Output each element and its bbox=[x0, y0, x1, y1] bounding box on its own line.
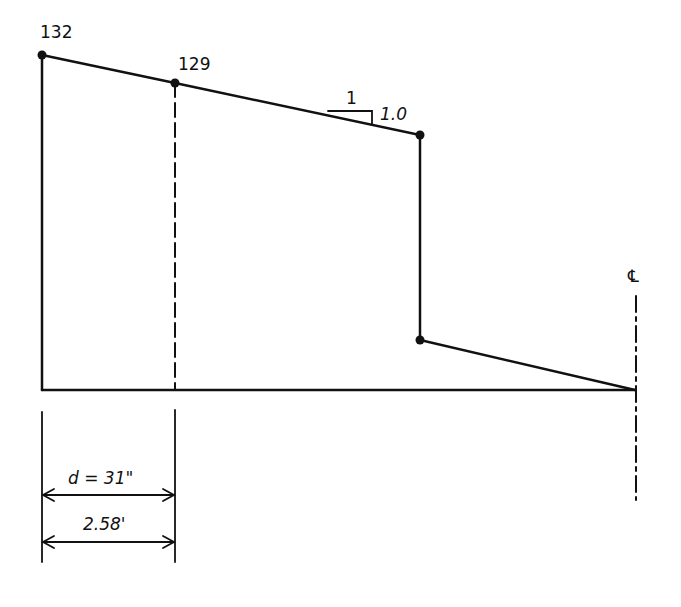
point-step-bottom bbox=[416, 336, 425, 345]
diagram-canvas: 132 129 1 1.0 ℄ d = 31" 2.58' bbox=[0, 0, 681, 607]
centerline-label: ℄ bbox=[627, 266, 639, 286]
point-critical bbox=[171, 79, 180, 88]
slope-run-label: 1 bbox=[346, 88, 357, 108]
slope-rise-label: 1.0 bbox=[380, 104, 407, 124]
dimension-feet-label: 2.58' bbox=[83, 514, 126, 534]
point-step-top bbox=[416, 131, 425, 140]
point-left-top bbox=[38, 51, 47, 60]
dimension-inches-label: d = 31" bbox=[68, 468, 133, 488]
profile-line bbox=[42, 55, 635, 390]
value-critical-label: 129 bbox=[178, 54, 210, 74]
value-left-label: 132 bbox=[40, 22, 72, 42]
